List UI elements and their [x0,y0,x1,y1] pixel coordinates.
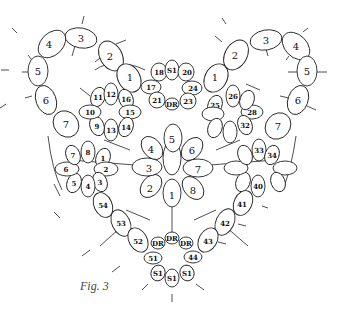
svg-text:11: 11 [93,93,103,102]
svg-text:33: 33 [254,146,264,155]
svg-text:53: 53 [116,219,126,228]
svg-text:S1: S1 [182,269,192,278]
svg-text:7: 7 [195,164,201,175]
svg-text:7: 7 [275,121,281,132]
svg-text:10: 10 [85,108,95,117]
svg-text:2: 2 [107,51,113,62]
svg-text:DR: DR [180,239,192,248]
lower-left-flower: 8 1 2 3 4 5 6 7 [55,141,118,197]
top-center-cluster: 18 S1 20 17 24 21 DR 23 [141,60,202,110]
svg-text:5: 5 [72,179,77,188]
svg-text:52: 52 [133,237,143,246]
svg-text:2: 2 [104,165,109,174]
svg-text:5: 5 [169,134,175,145]
svg-text:8: 8 [190,185,196,196]
svg-text:8: 8 [86,148,91,157]
svg-text:DR: DR [166,100,178,109]
svg-text:13: 13 [106,126,116,135]
svg-text:26: 26 [228,92,238,101]
left-arm: 54 53 52 51 [89,189,162,264]
svg-text:21: 21 [152,96,162,105]
svg-text:40: 40 [253,182,263,191]
svg-text:54: 54 [98,201,108,210]
svg-text:51: 51 [148,254,158,263]
svg-text:S1: S1 [167,274,177,283]
svg-text:23: 23 [183,97,193,106]
svg-text:18: 18 [154,68,164,77]
center-flower: 1 2 3 4 5 6 7 8 [132,124,213,207]
svg-text:S1: S1 [167,66,177,75]
svg-text:41: 41 [237,200,247,209]
tatting-diagram: 4 3 5 2 6 1 7 18 S1 20 17 24 21 DR 23 1 [0,0,343,312]
svg-text:42: 42 [220,219,230,228]
right-flower: 25 26 28 32 [202,85,263,143]
svg-text:34: 34 [267,151,277,160]
svg-text:6: 6 [189,145,195,156]
svg-text:7: 7 [71,151,76,160]
svg-text:7: 7 [63,119,69,130]
svg-text:3: 3 [146,163,152,174]
svg-text:S1: S1 [153,269,163,278]
svg-text:6: 6 [43,95,49,106]
svg-text:1: 1 [127,72,133,83]
svg-text:1: 1 [169,190,175,201]
figure-caption: Fig. 3 [80,279,109,294]
svg-text:43: 43 [203,237,213,246]
svg-text:44: 44 [188,253,198,262]
svg-text:9: 9 [95,122,100,131]
svg-text:17: 17 [146,83,156,92]
svg-text:12: 12 [106,90,116,99]
svg-text:3: 3 [263,35,269,46]
svg-text:4: 4 [46,39,52,50]
svg-text:32: 32 [240,121,250,130]
svg-text:3: 3 [98,178,103,187]
svg-text:DR: DR [166,234,178,243]
svg-text:5: 5 [304,66,310,77]
svg-text:DR: DR [152,239,164,248]
svg-text:4: 4 [293,41,299,52]
svg-text:24: 24 [188,84,198,93]
lower-right-flower: 33 34 40 [224,139,297,197]
svg-text:14: 14 [121,123,131,132]
svg-text:3: 3 [78,33,84,44]
svg-text:2: 2 [147,183,153,194]
svg-text:1: 1 [101,154,106,163]
svg-text:20: 20 [182,68,192,77]
svg-text:2: 2 [232,50,238,61]
svg-text:15: 15 [125,108,135,117]
svg-text:4: 4 [148,144,154,155]
svg-text:16: 16 [121,95,131,104]
svg-text:4: 4 [86,182,91,191]
svg-text:1: 1 [212,72,218,83]
svg-text:6: 6 [64,165,69,174]
svg-text:6: 6 [295,95,301,106]
svg-text:5: 5 [35,66,41,77]
